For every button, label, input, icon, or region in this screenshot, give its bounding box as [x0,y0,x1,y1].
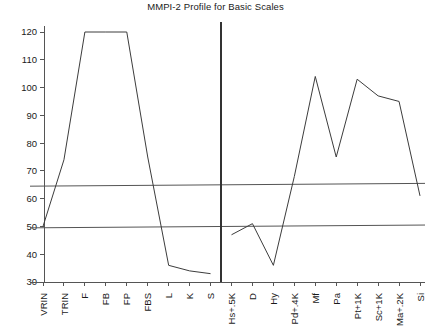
x-tick-label-Pt+1K: Pt+1K [352,292,363,319]
x-tick-label-Hs+.5K: Hs+.5K [226,292,237,324]
x-tick-label-TRIN: TRIN [59,293,70,315]
x-tick-label-Pa: Pa [331,292,342,304]
x-tick-label-Sc+1K: Sc+1K [373,292,384,321]
y-tick-label-100: 100 [21,82,37,93]
T50-line [30,225,425,228]
x-tick-label-Si: Si [415,293,426,301]
x-tick-label-Hy: Hy [268,293,279,305]
series-validity-scales [43,32,211,274]
y-tick-label-90: 90 [26,110,37,121]
y-axis-labels: 30405060708090100110120 [21,26,37,287]
x-tick-label-K: K [184,292,195,299]
x-tick-label-VRIN: VRIN [38,293,49,316]
x-tick-label-F: F [79,293,90,299]
x-tick-label-FP: FP [121,293,132,305]
x-tick-label-S: S [205,293,216,299]
x-tick-label-Ma+.2K: Ma+.2K [394,292,405,326]
chart-container: MMPI-2 Profile for Basic Scales 30405060… [0,0,431,335]
T65-line [30,183,425,186]
x-tick-label-D: D [247,293,258,300]
x-tick-label-Mf: Mf [310,293,321,304]
y-tick-label-80: 80 [26,138,37,149]
x-axis-ticks [43,282,420,286]
x-tick-label-L: L [163,293,174,298]
axis-lines [30,26,425,282]
y-tick-label-120: 120 [21,26,37,37]
data-series [43,32,420,274]
y-axis-ticks [40,32,44,282]
y-tick-label-60: 60 [26,193,37,204]
x-tick-label-FBS: FBS [142,293,153,311]
series-clinical-scales [232,76,421,265]
mmpi-profile-plot: 30405060708090100110120 VRINTRINFFBFPFBS… [0,0,431,335]
x-axis-labels: VRINTRINFFBFPFBSLKSHs+.5KDHyPd+.4KMfPaPt… [38,292,426,326]
y-tick-label-50: 50 [26,221,37,232]
y-tick-label-40: 40 [26,249,37,260]
x-tick-label-FB: FB [100,293,111,305]
reference-lines [30,183,425,227]
y-tick-label-70: 70 [26,165,37,176]
x-tick-label-Pd+.4K: Pd+.4K [289,292,300,324]
y-tick-label-110: 110 [22,54,37,65]
